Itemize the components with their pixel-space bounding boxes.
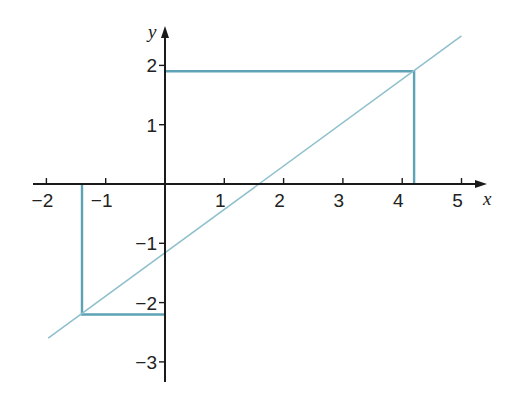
y-tick-label: 2 [146,55,157,76]
x-tick-label: 2 [274,190,285,211]
series-guide-upper [165,71,414,184]
x-tick-label: 4 [393,190,404,211]
chart-canvas: −2−11234521−1−2−3 x y [0,0,519,401]
x-tick-label: −2 [32,190,54,211]
y-tick-label: −2 [135,293,157,314]
x-tick-label: 5 [452,190,463,211]
tick-labels: −2−11234521−1−2−3 [32,55,463,373]
x-axis-arrow-icon [475,180,487,188]
series-line [48,36,461,338]
x-tick-label: 3 [334,190,345,211]
y-tick-label: 1 [146,115,157,136]
x-tick-label: −1 [91,190,113,211]
y-axis-label: y [146,21,157,42]
y-axis-arrow-icon [161,26,169,38]
data-line [48,36,461,338]
x-axis-label: x [482,188,492,209]
x-tick-label: 1 [215,190,226,211]
tick-marks [46,65,461,362]
y-tick-label: −1 [135,233,157,254]
y-tick-label: −3 [135,352,157,373]
